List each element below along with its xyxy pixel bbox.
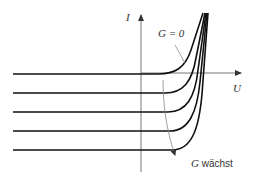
iu-diagram: I U G = 0 G wächst <box>0 0 254 183</box>
curve-g1 <box>13 13 205 93</box>
g0-label: G = 0 <box>158 27 185 39</box>
g0-leader-line <box>175 45 185 63</box>
x-axis-label: U <box>233 82 242 94</box>
curve-g0 <box>13 13 203 74</box>
y-axis-label: I <box>125 11 131 23</box>
g-grows-label: G wächst <box>191 157 233 169</box>
